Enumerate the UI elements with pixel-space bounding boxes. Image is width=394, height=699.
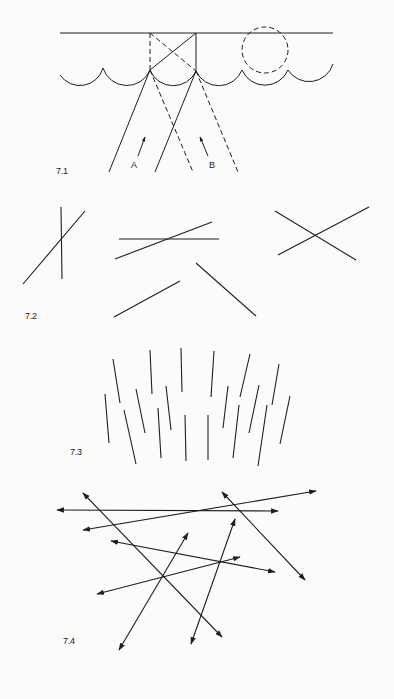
tick-segment: [211, 351, 214, 397]
tick-segment: [272, 364, 279, 405]
figure-label-7-1: 7.1: [56, 166, 68, 176]
figure-7-3: [105, 348, 290, 466]
double-arrow: [191, 519, 235, 644]
figure-label-7-2: 7.2: [25, 311, 37, 321]
figure-label-7-3: 7.3: [70, 447, 82, 457]
tick-segment: [240, 354, 250, 397]
arrow-b-icon: [200, 137, 208, 156]
tick-segment: [185, 415, 186, 461]
segment: [114, 281, 180, 317]
figure-7-2: [23, 207, 369, 317]
tick-segment: [124, 410, 136, 464]
tick-segment: [113, 359, 120, 403]
segment: [61, 207, 62, 279]
tick-segment: [223, 386, 228, 428]
tick-segment: [105, 394, 109, 443]
tick-segment: [150, 350, 152, 394]
double-arrow: [97, 557, 240, 594]
tick-segment: [158, 408, 161, 458]
tick-segment: [249, 385, 259, 433]
double-arrow: [222, 492, 305, 580]
segment: [278, 207, 369, 255]
book-page: 7.1 A B 7.2 7.3 7.4: [0, 0, 394, 699]
ray-label-b: B: [209, 160, 215, 170]
tick-segment: [166, 386, 171, 430]
ray-label-a: A: [131, 160, 137, 170]
tick-segment: [181, 348, 182, 392]
tick-segment: [136, 389, 145, 433]
ray-b-solid: [155, 71, 196, 172]
figure-canvas: [0, 0, 394, 699]
tick-segment: [233, 405, 239, 458]
segment: [115, 222, 212, 259]
tick-segment: [280, 396, 290, 444]
figure-label-7-4: 7.4: [63, 636, 75, 646]
figure-7-1: [60, 27, 333, 172]
segment: [196, 263, 256, 316]
dashed-wavelet-circle: [242, 27, 288, 73]
figure-7-4: [57, 491, 316, 650]
arrow-a-icon: [138, 137, 145, 156]
segment: [23, 211, 85, 284]
double-arrow: [111, 541, 275, 572]
double-arrow: [57, 510, 278, 511]
tick-segment: [258, 405, 267, 466]
